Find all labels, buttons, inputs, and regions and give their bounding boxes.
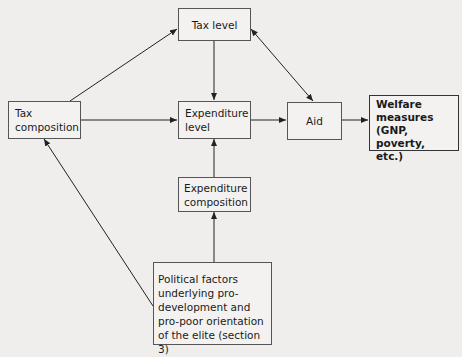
node-label-line: (GNP, poverty, — [376, 124, 458, 150]
node-label-line: underlying pro- — [158, 286, 271, 300]
edge-taxcomp-taxlevel — [70, 29, 177, 101]
node-label-line: of the elite (section 3) — [158, 328, 271, 356]
node-label-line: development and — [158, 300, 271, 314]
node-label-line: pro-poor orientation — [158, 314, 271, 328]
node-label: Tax level — [192, 18, 238, 32]
node-tax-composition: Tax composition — [8, 101, 81, 139]
node-aid: Aid — [287, 102, 342, 140]
node-label-line: Expenditure — [184, 181, 250, 195]
node-label-line: Welfare — [376, 98, 458, 111]
node-label-line: composition — [184, 195, 250, 209]
node-label: Aid — [306, 114, 323, 128]
node-label-line: Political factors — [158, 272, 271, 286]
node-label-line: Tax — [15, 106, 80, 120]
node-welfare-measures: Welfare measures (GNP, poverty, etc.) — [369, 95, 459, 151]
node-label-line: measures — [376, 111, 458, 124]
node-label-line: etc.) — [376, 150, 458, 163]
node-expenditure-composition: Expenditure composition — [178, 177, 251, 212]
node-expenditure-level: Expenditure level — [178, 101, 251, 139]
edge-taxlevel-aid — [251, 29, 313, 101]
edge-political-taxcomp — [44, 139, 153, 306]
node-label-line: Expenditure — [185, 106, 250, 120]
node-political-factors: Political factors underlying pro- develo… — [153, 262, 272, 345]
node-label-line: level — [185, 120, 250, 134]
node-tax-level: Tax level — [178, 8, 251, 41]
node-label-line: composition — [15, 120, 80, 134]
